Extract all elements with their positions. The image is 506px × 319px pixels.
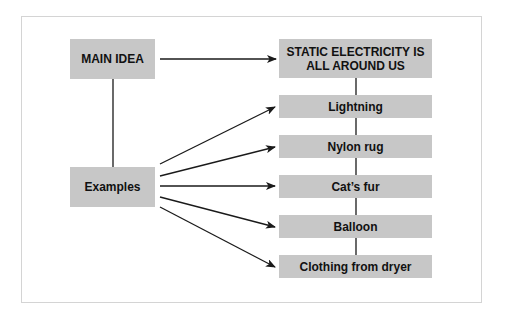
main-idea-label: MAIN IDEA (81, 52, 144, 66)
example-label: Lightning (328, 100, 383, 114)
arrow-examples-to-lightning (160, 107, 275, 164)
example-box-lightning: Lightning (279, 95, 432, 118)
arrow-examples-to-nylon-rug (160, 147, 275, 176)
main-statement-line-1: STATIC ELECTRICITY IS (286, 45, 424, 59)
arrow-examples-to-balloon (160, 197, 275, 227)
example-label: Clothing from dryer (299, 260, 411, 274)
example-label: Balloon (334, 220, 378, 234)
example-box-clothing-from-dryer: Clothing from dryer (279, 255, 432, 278)
examples-box: Examples (70, 167, 155, 207)
arrow-examples-to-clothing (160, 207, 275, 267)
example-label: Cat’s fur (331, 180, 379, 194)
example-label: Nylon rug (328, 140, 384, 154)
example-box-balloon: Balloon (279, 215, 432, 238)
main-statement-line-2: ALL AROUND US (306, 59, 405, 73)
example-box-cats-fur: Cat’s fur (279, 175, 432, 198)
examples-label: Examples (84, 180, 140, 194)
main-statement-box: STATIC ELECTRICITY IS ALL AROUND US (279, 39, 432, 78)
main-idea-box: MAIN IDEA (70, 39, 155, 79)
example-box-nylon-rug: Nylon rug (279, 135, 432, 158)
